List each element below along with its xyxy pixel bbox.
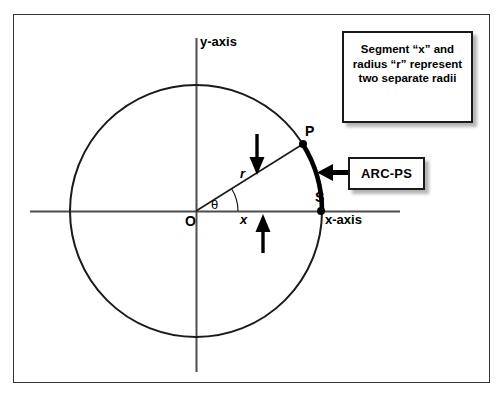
arrow-to-chord-x bbox=[256, 214, 271, 253]
arc-callout-label: ARC-PS bbox=[361, 166, 412, 181]
point-label-s: S bbox=[315, 190, 324, 204]
diagram-canvas: y-axis x-axis O P S r x θ Segment “x” an… bbox=[0, 0, 502, 400]
chord-label-x: x bbox=[240, 213, 247, 226]
angle-arc-theta bbox=[232, 189, 238, 211]
note-callout-text: Segment “x” and radius “r” represent two… bbox=[344, 42, 471, 86]
point-marker-p bbox=[299, 140, 307, 148]
point-marker-s bbox=[317, 207, 325, 215]
radius-label-r: r bbox=[240, 167, 245, 180]
point-label-o: O bbox=[185, 214, 196, 228]
angle-label-theta: θ bbox=[211, 198, 218, 211]
arrow-to-arc bbox=[317, 164, 348, 181]
y-axis-label: y-axis bbox=[200, 35, 237, 48]
x-axis-label: x-axis bbox=[325, 213, 362, 226]
note-callout-box: Segment “x” and radius “r” represent two… bbox=[342, 31, 473, 123]
point-label-p: P bbox=[305, 124, 314, 138]
arc-callout-box: ARC-PS bbox=[348, 157, 425, 190]
